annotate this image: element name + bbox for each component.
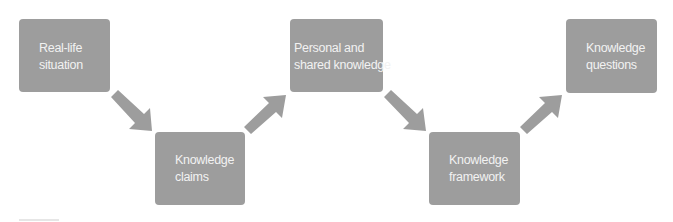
node-label-line1: Real-life [39,40,83,57]
node-label-line2: claims [175,169,234,186]
node-label-line2: shared knowledge [294,57,391,74]
arrow-down-right-icon [384,90,426,131]
arrow-up-right-icon [244,95,286,134]
node-label-line1: Knowledge [449,152,508,169]
node-knowledge-framework: Knowledge framework [429,132,520,205]
node-label-line2: situation [39,57,83,74]
node-label-line1: Knowledge [586,40,645,57]
node-knowledge-claims: Knowledge claims [155,132,245,205]
node-label-line1: Knowledge [175,152,234,169]
node-knowledge-questions: Knowledge questions [566,19,657,93]
node-label-line2: framework [449,169,508,186]
node-real-life-situation: Real-life situation [19,19,110,92]
node-label-line2: questions [586,57,645,74]
node-personal-and-shared-knowledge: Personal and shared knowledge [290,19,383,92]
arrow-down-right-icon [111,90,152,131]
arrow-up-right-icon [520,95,562,134]
node-label-line1: Personal and [294,40,391,57]
divider [19,219,59,221]
